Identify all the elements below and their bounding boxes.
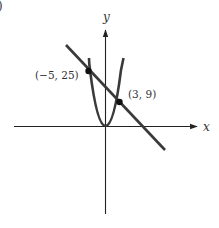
point-label-right: (3, 9) [128,88,156,100]
intersection-point-left [85,68,91,74]
y-axis-label: y [102,10,110,24]
parabola-curve [89,58,124,126]
intersection-point-right [116,99,122,105]
x-axis-label: x [203,120,210,134]
graph-figure: ) x y (−5, 25) (3, 9) [0,0,219,228]
point-label-left: (−5, 25) [35,69,79,81]
panel-label-fragment: ) [0,0,3,13]
